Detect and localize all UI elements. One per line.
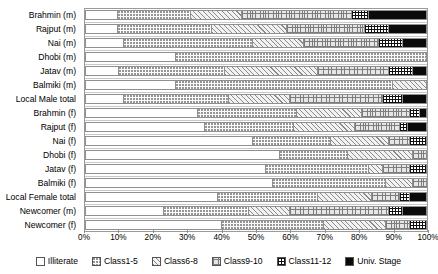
bar-segment-c1112 (383, 94, 404, 104)
legend-item-c910[interactable]: Class9-10 (212, 256, 263, 266)
bar-segment-c910 (383, 164, 410, 174)
bar-segment-illit (85, 66, 119, 76)
stacked-bar (85, 150, 427, 160)
bar-segment-univ (403, 206, 427, 216)
x-axis-tick-label: 100% (418, 233, 438, 242)
legend-label: Illiterate (48, 256, 78, 266)
stacked-bar (85, 108, 427, 118)
legend-swatch-c15-icon (92, 257, 101, 266)
bar-segment-c1112 (410, 164, 427, 174)
y-axis-label: Dhobi (f) (0, 148, 80, 162)
legend-swatch-c68-icon (152, 257, 161, 266)
bar-segment-illit (85, 192, 218, 202)
bar-segment-c15 (218, 192, 317, 202)
bar-segment-c910 (413, 150, 427, 160)
bar-segment-c15 (119, 66, 225, 76)
bar-segment-c68 (191, 10, 242, 20)
bar-segment-c1112 (365, 24, 389, 34)
y-axis-label: Jatav (m) (0, 64, 80, 78)
bar-segment-c1112 (400, 192, 410, 202)
bar-segment-c68 (324, 220, 386, 230)
legend-item-univ[interactable]: Univ. Stage (345, 256, 401, 266)
bar-row (85, 149, 427, 163)
bar-row (85, 51, 427, 65)
stacked-bar (85, 136, 427, 146)
bar-segment-c1112 (400, 122, 409, 132)
bar-segment-illit (85, 150, 280, 160)
bar-segment-c15 (280, 150, 348, 160)
bar-segment-illit (85, 122, 205, 132)
bar-segment-c68 (253, 38, 304, 48)
legend-item-c15[interactable]: Class1-5 (92, 256, 138, 266)
bar-segment-illit (85, 136, 253, 146)
bar-segment-c15 (222, 220, 325, 230)
bar-segment-c15 (273, 178, 386, 188)
bar-segment-c15 (176, 52, 427, 62)
y-axis-label: Jatav (f) (0, 162, 80, 176)
y-axis-label: Nai (f) (0, 134, 80, 148)
bar-segment-univ (403, 38, 427, 48)
bar-row (85, 107, 427, 121)
x-axis-tick-labels: 0%10%20%30%40%50%60%70%80%90%100% (84, 233, 428, 245)
bar-segment-c910 (290, 94, 382, 104)
bar-segment-illit (85, 10, 118, 20)
bar-segment-c15 (176, 80, 393, 90)
stacked-bar (85, 38, 427, 48)
legend-label: Class6-8 (164, 256, 198, 266)
legend-swatch-illit-icon (36, 257, 45, 266)
bar-segment-c910 (389, 136, 410, 146)
y-axis-label: Balmiki (m) (0, 78, 80, 92)
stacked-bar (85, 94, 427, 104)
legend-label: Univ. Stage (357, 256, 401, 266)
stacked-bar (85, 206, 427, 216)
bar-segment-c1112 (410, 136, 427, 146)
bar-segment-illit (85, 38, 124, 48)
legend-item-c1112[interactable]: Class11-12 (277, 256, 332, 266)
bar-segment-c68 (294, 122, 356, 132)
y-axis-label: Brahmin (m) (0, 8, 80, 22)
x-axis-tick-label: 10% (110, 233, 126, 242)
stacked-bar (85, 66, 427, 76)
y-axis-label: Brahmin (f) (0, 106, 80, 120)
bar-segment-univ (410, 192, 427, 202)
x-axis-tick-label: 0% (78, 233, 90, 242)
y-axis-label: Newcomer (m) (0, 204, 80, 218)
bar-segment-c910 (304, 38, 379, 48)
x-axis-tick-label: 50% (248, 233, 264, 242)
stacked-bar (85, 220, 427, 230)
stacked-bar (85, 178, 427, 188)
bar-segment-illit (85, 94, 124, 104)
bar-segment-illit (85, 164, 266, 174)
bar-segment-c910 (372, 192, 399, 202)
bar-segment-c910 (386, 220, 410, 230)
bar-segment-c68 (318, 192, 373, 202)
stacked-bar (85, 80, 427, 90)
legend-item-c68[interactable]: Class6-8 (152, 256, 198, 266)
bar-segment-illit (85, 206, 164, 216)
bar-segment-univ (408, 122, 427, 132)
bar-row (85, 93, 427, 107)
bar-segment-univ (369, 10, 427, 20)
stacked-bar (85, 24, 427, 34)
bar-row (85, 135, 427, 149)
stacked-bar (85, 122, 427, 132)
y-axis-label: Newcomer (f) (0, 218, 80, 232)
x-axis-tick-label: 80% (351, 233, 367, 242)
x-axis-tick-label: 30% (179, 233, 195, 242)
bar-segment-c68 (348, 150, 413, 160)
bar-segment-c68 (225, 66, 317, 76)
bar-row (85, 205, 427, 219)
stacked-bar (85, 164, 427, 174)
bar-row (85, 37, 427, 51)
bar-segment-c1112 (379, 38, 403, 48)
y-axis-label: Nai (m) (0, 36, 80, 50)
bar-segment-univ (413, 66, 427, 76)
bar-segment-univ (403, 94, 427, 104)
legend-item-illit[interactable]: Illiterate (36, 256, 78, 266)
bar-segment-illit (85, 178, 273, 188)
chart-legend: IlliterateClass1-5Class6-8Class9-10Class… (0, 253, 437, 269)
bar-segment-c68 (393, 80, 427, 90)
bar-row (85, 23, 427, 37)
bar-segment-c68 (386, 178, 413, 188)
